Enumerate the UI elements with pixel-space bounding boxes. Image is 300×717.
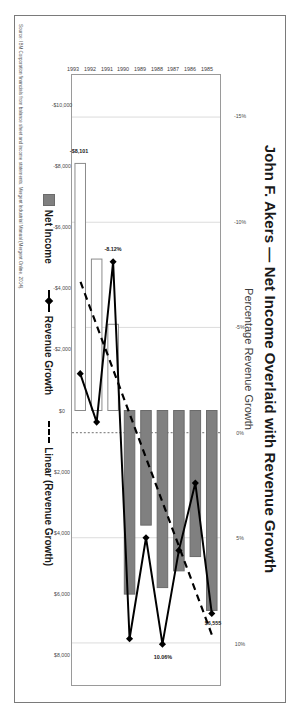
chart-canvas: John F. Akers — Net Income Overlaid with… [14, 15, 286, 703]
year-tick-label: 1987 [167, 66, 179, 72]
year-tick-label: 1993 [67, 66, 79, 72]
percent-tick-label: 10% [235, 640, 245, 646]
net-income-bar [141, 410, 152, 525]
data-label: -8.12% [104, 246, 121, 252]
legend-item-linear-trend: Linear (Revenue Growth) [44, 421, 55, 566]
source-note: Source: IBM Corporation financials from … [18, 24, 23, 290]
chart-legend: Net Income Revenue Growth Linear (Revenu… [39, 74, 59, 686]
year-tick-label: 1989 [134, 66, 146, 72]
legend-item-revenue-growth: Revenue Growth [44, 289, 55, 394]
revenue-growth-marker [93, 418, 100, 425]
year-tick-label: 1990 [117, 66, 129, 72]
percent-tick-label: -10% [234, 218, 246, 224]
net-income-swatch-icon [43, 193, 55, 205]
year-tick-label: 1988 [151, 66, 163, 72]
series-overlay [72, 75, 220, 685]
revenue-growth-line-icon [44, 289, 54, 311]
chart-title: John F. Akers — Net Income Overlaid with… [262, 16, 279, 702]
revenue-growth-marker [142, 534, 149, 541]
revenue-growth-marker [126, 635, 133, 642]
legend-label-revenue-growth: Revenue Growth [44, 315, 55, 394]
percent-tick-label: 5% [236, 535, 244, 541]
net-income-bar [157, 410, 168, 587]
revenue-growth-marker [159, 640, 166, 647]
year-tick-label: 1986 [184, 66, 196, 72]
dollar-tick-label: $0 [59, 407, 65, 413]
year-tick-label: 1985 [201, 66, 213, 72]
data-label: -$8,101 [70, 147, 88, 153]
year-tick-label: 1991 [101, 66, 113, 72]
percent-tick-label: -5% [235, 324, 244, 330]
data-label: 10.06% [154, 654, 172, 660]
legend-label-linear-trend: Linear (Revenue Growth) [44, 447, 55, 566]
data-label: $6,555 [204, 620, 221, 626]
percent-tick-label: -15% [234, 113, 246, 119]
legend-item-net-income: Net Income [43, 193, 55, 263]
revenue-growth-marker [110, 258, 117, 265]
rotated-chart-wrapper: John F. Akers — Net Income Overlaid with… [0, 0, 300, 717]
year-tick-label: 1992 [84, 66, 96, 72]
plot-area [71, 74, 221, 686]
chart-page: John F. Akers — Net Income Overlaid with… [0, 0, 300, 717]
percent-tick-label: 0% [236, 429, 244, 435]
legend-label-net-income: Net Income [44, 209, 55, 263]
dashed-trendline-icon [44, 421, 54, 443]
